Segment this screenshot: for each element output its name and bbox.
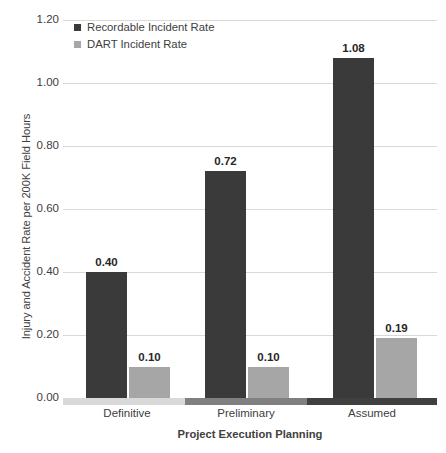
bar-value-label: 1.08 [323,43,384,55]
legend-item[interactable]: Recordable Incident Rate [74,20,214,35]
bar-value-label: 0.10 [238,352,299,364]
legend-item[interactable]: DART Incident Rate [74,37,214,52]
bar-value-label: 0.10 [119,352,180,364]
legend-swatch-icon [74,24,81,31]
gridline [63,209,437,210]
gridline [63,146,437,147]
y-axis-tick-label: 1.20 [19,14,59,26]
legend-label: DART Incident Rate [87,39,187,50]
plot-area: 0.400.100.720.101.080.19 [63,20,437,398]
bar-value-label: 0.40 [76,257,137,269]
bar-chart: Injury and Accident Rate per 200K Field … [0,0,446,453]
bar-value-label: 0.72 [195,156,256,168]
gridline [63,83,437,84]
y-axis-tick-label: 0.80 [19,140,59,152]
x-axis-category-label: Definitive [67,407,187,419]
legend: Recordable Incident RateDART Incident Ra… [74,20,214,54]
bar-value-label: 0.19 [366,323,427,335]
y-axis-tick-label: 0.40 [19,266,59,278]
legend-swatch-icon [74,41,81,48]
bar [333,58,374,398]
legend-label: Recordable Incident Rate [87,22,214,33]
y-axis-tick-labels: 0.000.200.400.600.801.001.20 [15,0,59,453]
x-axis-band-segment [185,398,307,405]
x-axis-band-segment [307,398,437,405]
bar [205,171,246,398]
x-axis-category-label: Preliminary [186,407,306,419]
x-axis-title: Project Execution Planning [63,428,437,440]
y-axis-tick-label: 1.00 [19,77,59,89]
y-axis-tick-label: 0.20 [19,329,59,341]
bar [248,367,289,399]
y-axis-tick-label: 0.60 [19,203,59,215]
y-axis-tick-label: 0.00 [19,392,59,404]
x-axis-band-segment [63,398,185,405]
x-axis-category-label: Assumed [312,407,432,419]
bar [376,338,417,398]
bar [86,272,127,398]
bar [129,367,170,399]
